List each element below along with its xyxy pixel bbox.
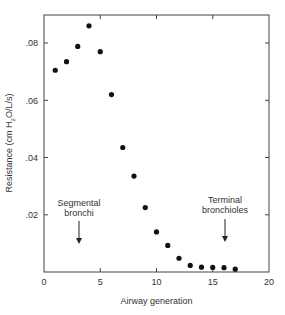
x-tick-label: 20	[264, 277, 274, 287]
data-point	[188, 263, 193, 268]
data-point	[86, 23, 91, 28]
x-tick-label: 10	[151, 277, 161, 287]
data-point	[210, 265, 215, 270]
data-point	[98, 49, 103, 54]
scatter-chart: 0 5 10 15 20 .02 .04 .06 .08 Airway gene…	[0, 0, 285, 315]
arrow-head-icon	[222, 236, 228, 242]
annotation-segmental: bronchi	[64, 208, 94, 218]
arrow-head-icon	[76, 238, 82, 244]
y-tick-label: .02	[25, 210, 38, 220]
y-tick-label: .08	[25, 38, 38, 48]
annotation-terminal: bronchioles	[202, 205, 249, 215]
x-tick-label: 0	[41, 277, 46, 287]
data-point	[233, 267, 238, 272]
data-point	[109, 92, 114, 97]
data-point	[131, 174, 136, 179]
x-tick-label: 5	[98, 277, 103, 287]
y-axis-label: Resistance (cm H2O/L/s)	[4, 94, 16, 193]
data-point	[199, 265, 204, 270]
annotation-terminal: Terminal	[208, 195, 242, 205]
data-point	[53, 68, 58, 73]
x-axis-label: Airway generation	[120, 296, 192, 306]
data-point	[154, 229, 159, 234]
data-points	[53, 23, 238, 271]
data-point	[64, 59, 69, 64]
data-point	[120, 145, 125, 150]
data-point	[176, 256, 181, 261]
annotation-segmental: Segmental	[57, 198, 100, 208]
data-point	[75, 44, 80, 49]
data-point	[221, 265, 226, 270]
y-tick-label: .04	[25, 153, 38, 163]
data-point	[143, 205, 148, 210]
data-point	[165, 243, 170, 248]
x-tick-label: 15	[208, 277, 218, 287]
y-axis	[44, 43, 269, 215]
y-tick-label: .06	[25, 96, 38, 106]
